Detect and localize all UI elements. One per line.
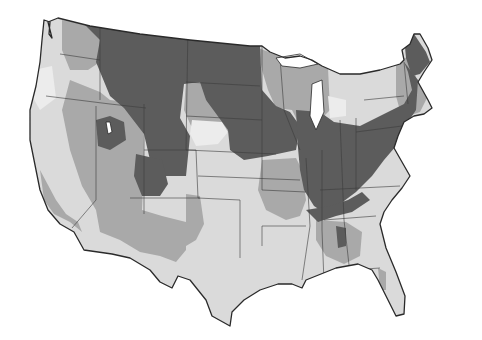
us-choropleth-map <box>0 0 482 340</box>
region-dark-socal-coast <box>40 218 52 232</box>
map-fill <box>0 0 482 340</box>
